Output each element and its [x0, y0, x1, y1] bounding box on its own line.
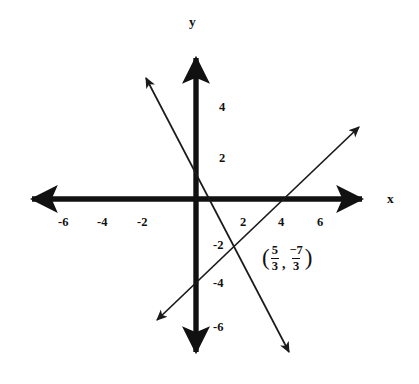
intersection-point-label: ( 5 3 , −7 3 ) [262, 244, 312, 273]
y-tick-label-2: 2 [219, 152, 225, 165]
y-tick-label--2: -2 [213, 239, 223, 252]
y-tick-label-4: 4 [219, 101, 225, 114]
y-tick-label--4: -4 [213, 277, 223, 290]
x-tick-label--4: -4 [97, 216, 107, 229]
x-tick-label--6: -6 [58, 216, 68, 229]
x-fraction-denominator: 3 [271, 258, 279, 273]
x-axis-label: x [387, 192, 394, 206]
open-paren: ( [262, 246, 270, 269]
x-tick-label--2: -2 [137, 216, 147, 229]
y-fraction-numerator: −7 [288, 244, 303, 258]
coordinate-plane-figure: y x -6 -4 -2 2 4 6 4 2 -2 -4 -6 ( 5 3 , … [0, 0, 419, 384]
x-tick-label-6: 6 [317, 216, 323, 229]
graph-canvas [0, 0, 419, 384]
x-coordinate-fraction: 5 3 [270, 244, 280, 273]
y-tick-label--6: -6 [213, 321, 223, 334]
close-paren: ) [305, 246, 313, 269]
x-tick-label-4: 4 [278, 216, 284, 229]
x-tick-label-2: 2 [240, 216, 246, 229]
y-fraction-denominator: 3 [292, 258, 300, 273]
x-fraction-numerator: 5 [271, 244, 279, 258]
y-coordinate-fraction: −7 3 [287, 244, 304, 273]
y-axis-label: y [189, 15, 196, 29]
coordinate-separator: , [280, 257, 288, 271]
